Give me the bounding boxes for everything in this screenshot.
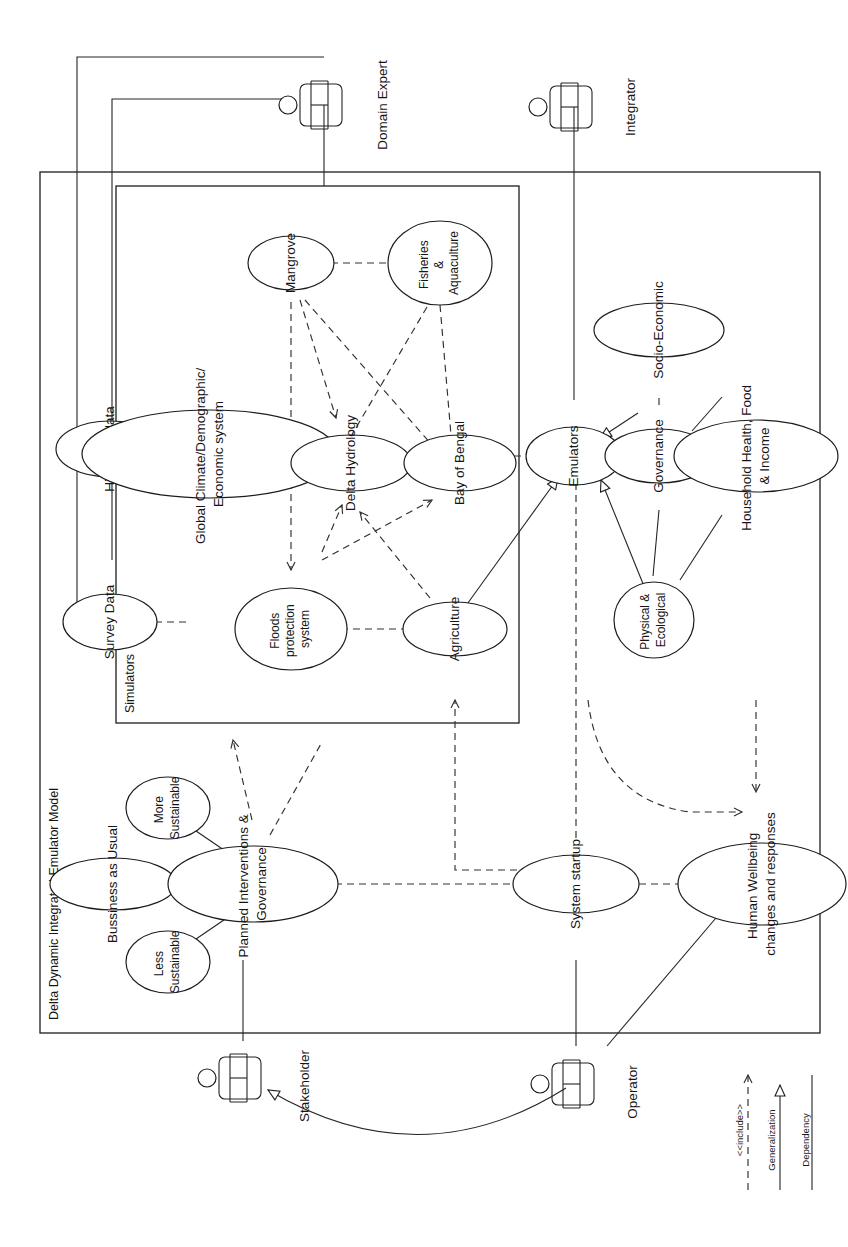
line-1: Household Health, Food [739, 385, 754, 531]
actor-label: Operator [625, 1065, 640, 1119]
line-2: protection [283, 604, 297, 657]
line-1: Global Climate/Demographic/ [193, 367, 208, 544]
use-case-label: Bay of Bengal [452, 421, 467, 505]
actor-label: Integrator [623, 78, 638, 136]
use-case-label: Survey Data [102, 584, 117, 659]
use-case-label: Governance [651, 419, 666, 493]
diagram-canvas: Delta Dynamic Integrated Emulator Model … [0, 0, 848, 1247]
use-case-floods-protection-system[interactable]: Floods protection system [235, 588, 347, 670]
line-3: Aquaculture [447, 231, 461, 295]
use-case-label: Socio-Economic [651, 281, 666, 379]
line-1: Less [152, 951, 166, 976]
use-case-label: Agriculture [447, 597, 462, 662]
use-case-label: Delta Hydrology [343, 415, 358, 511]
use-case-fisheries-aquaculture[interactable]: Fisheries & Aquaculture [388, 221, 492, 305]
use-case-diagram-svg: Delta Dynamic Integrated Emulator Model … [0, 0, 848, 1247]
simulators-boundary-label: Simulators [123, 654, 137, 713]
use-case-more-sustainable[interactable]: More Sustainable [126, 776, 210, 839]
line-1: Floods [268, 613, 282, 649]
legend-label: <<include>> [734, 1103, 745, 1156]
use-case-less-sustainable[interactable]: Less Sustainable [126, 930, 210, 993]
use-case-label: System startup [568, 839, 583, 929]
legend-label: Generalization [766, 1109, 777, 1170]
line-2: Sustainable [168, 930, 182, 993]
use-case-label: Bussiness as Usual [105, 825, 120, 943]
actor-label: Domain Expert [375, 60, 390, 150]
use-case-label: Mangrove [283, 233, 298, 293]
line-2: changes and responses [763, 812, 778, 956]
line-1: Fisheries [417, 240, 431, 289]
line-2: & [432, 261, 446, 269]
line-1: Planned Interventions & [236, 814, 251, 957]
use-case-label: Emulators [566, 425, 581, 486]
line-2: Economic system [211, 401, 226, 507]
line-1: Physical & [638, 594, 652, 650]
line-2: Governance [254, 847, 269, 921]
actor-label: Stakeholder [297, 1049, 312, 1122]
line-2: Ecological [654, 593, 668, 648]
line-3: system [298, 610, 312, 648]
line-1: More [152, 796, 166, 824]
line-1: Human Wellbeing [745, 833, 760, 939]
system-boundary-label: Delta Dynamic Integrated Emulator Model [47, 788, 61, 1020]
legend-label: Dependency [800, 1113, 811, 1167]
line-2: Sustainable [168, 776, 182, 839]
line-2: & Income [757, 427, 772, 484]
use-case-physical-ecological[interactable]: Physical & Ecological [614, 582, 694, 658]
